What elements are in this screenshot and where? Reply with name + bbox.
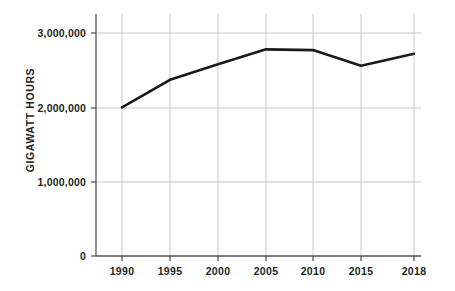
- y-tick-label-2000000: 2,000,000: [37, 102, 86, 114]
- x-tick-label-2000: 2000: [206, 265, 231, 277]
- x-tick-label-2005: 2005: [254, 265, 279, 277]
- x-tick-label-2018: 2018: [402, 265, 427, 277]
- x-tick-label-2010: 2010: [301, 265, 326, 277]
- y-tick-label-1000000: 1,000,000: [37, 176, 86, 188]
- x-tick-label-2015: 2015: [349, 265, 374, 277]
- y-axis-title: GIGAWATT HOURS: [24, 68, 36, 172]
- line-chart: 3,000,000 2,000,000 1,000,000 0 1990 199…: [0, 0, 455, 291]
- chart-canvas: 3,000,000 2,000,000 1,000,000 0 1990 199…: [0, 0, 455, 291]
- y-tick-label-3000000: 3,000,000: [37, 27, 86, 39]
- chart-background: [0, 0, 455, 291]
- x-tick-label-1990: 1990: [110, 265, 135, 277]
- x-tick-label-1995: 1995: [158, 265, 183, 277]
- y-tick-label-0: 0: [80, 250, 86, 262]
